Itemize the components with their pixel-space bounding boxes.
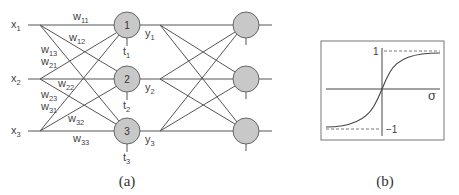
- sigma-axis-label: σ: [428, 89, 436, 103]
- upper-value-label: 1: [373, 46, 379, 57]
- input-label-x3: x3: [11, 124, 21, 139]
- edge-y1-o2: [160, 25, 235, 72]
- output-label-y2: y2: [145, 81, 155, 96]
- hidden-node-2-label: 2: [124, 74, 130, 85]
- weight-label-w33: w33: [72, 132, 89, 147]
- output-node-3: [233, 118, 259, 144]
- output-labels: y1 y2 y3: [145, 27, 155, 148]
- output-label-y1: y1: [145, 27, 155, 42]
- hidden-node-1-label: 1: [124, 20, 130, 31]
- caption-a: (a): [119, 173, 136, 190]
- edge-y3-o2: [160, 86, 235, 131]
- hidden-layer: 1 2 3: [114, 12, 140, 144]
- output-label-y3: y3: [145, 133, 155, 148]
- lower-value-label: −1: [386, 124, 398, 135]
- output-layer: [233, 12, 259, 144]
- threshold-label-t1: t1: [123, 45, 130, 60]
- weight-label-w32: w32: [67, 112, 84, 127]
- output-node-2: [233, 66, 259, 92]
- input-label-x1: x1: [11, 18, 21, 33]
- hidden-node-3-label: 3: [124, 126, 130, 137]
- threshold-label-t2: t2: [123, 99, 130, 114]
- input-label-x2: x2: [11, 72, 21, 87]
- figure-canvas: 1 2 3 x1 x2 x3 w11 w12 w13 w21 w22 w23 w…: [0, 0, 459, 195]
- weight-label-w11: w11: [72, 10, 89, 25]
- threshold-label-t3: t3: [123, 151, 130, 166]
- caption-b: (b): [376, 173, 394, 190]
- output-node-1: [233, 12, 259, 38]
- sigmoid-plot: 1 −1 σ: [321, 41, 444, 140]
- input-labels: x1 x2 x3: [11, 18, 21, 139]
